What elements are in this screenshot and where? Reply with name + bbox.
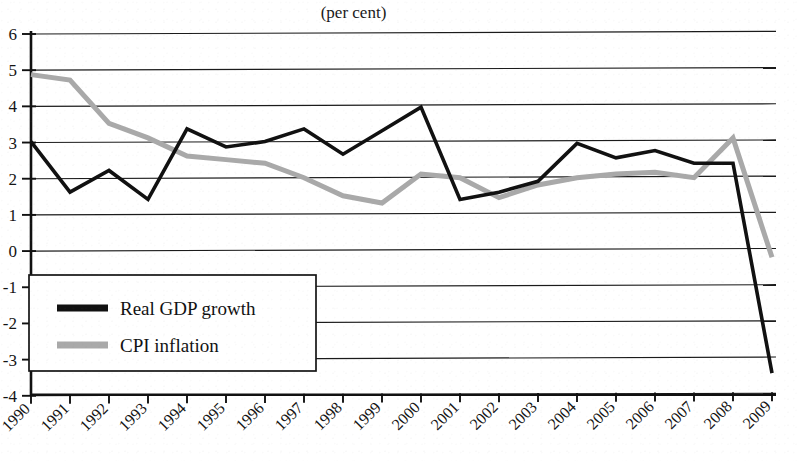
chart-subtitle: (per cent) — [321, 3, 387, 22]
y-tick-label--3: -3 — [3, 351, 17, 370]
y-tick-label-0: 0 — [9, 242, 18, 261]
chart-legend: Real GDP growth CPI inflation — [29, 275, 316, 371]
legend-label-cpi-inflation: CPI inflation — [120, 335, 219, 356]
y-tick-label--4: -4 — [3, 387, 18, 406]
chart-container: (per cent) 6543210-1-2-3-4 1990199119921… — [0, 0, 799, 461]
line-chart: (per cent) 6543210-1-2-3-4 1990199119921… — [0, 0, 799, 461]
legend-box — [29, 275, 316, 371]
y-tick-label-1: 1 — [9, 206, 18, 225]
y-tick-label--2: -2 — [3, 314, 17, 333]
y-tick-label-6: 6 — [9, 25, 18, 44]
y-tick-label-5: 5 — [9, 61, 18, 80]
y-tick-label-3: 3 — [9, 134, 18, 153]
legend-label-real-gdp-growth: Real GDP growth — [120, 298, 256, 319]
y-tick-label-2: 2 — [9, 170, 18, 189]
y-tick-label--1: -1 — [3, 278, 17, 297]
y-tick-label-4: 4 — [9, 97, 18, 116]
